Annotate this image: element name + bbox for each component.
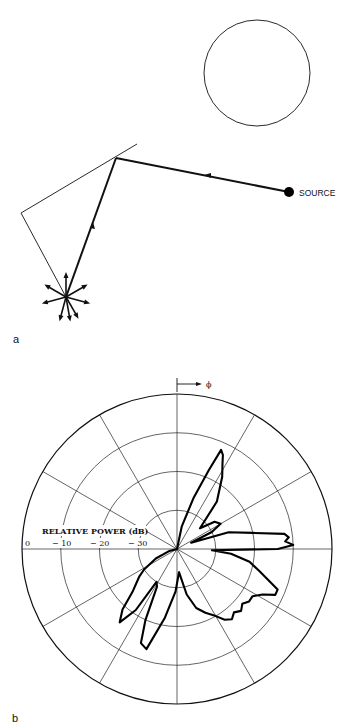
panel-b: ϕ RELATIVE POWER (dB) 0 − 10 − 20 − 30 b [12, 378, 332, 724]
scatter-arrowhead-icon [42, 300, 48, 305]
relative-power-title: RELATIVE POWER (dB) [42, 526, 149, 536]
obstacle-circle [204, 20, 310, 126]
scatter-arrowhead-icon [84, 300, 90, 305]
incident-ray [116, 158, 289, 192]
source-label: SOURCE [299, 188, 336, 198]
scatter-arrowhead-icon [64, 272, 69, 278]
figure: SOURCE a ϕ RELATIVE POWER (dB) 0 − 10 − … [0, 0, 353, 728]
tick-label-10: − 10 [52, 539, 71, 548]
tick-label-20: − 20 [90, 539, 109, 548]
phi-arrow-icon [196, 382, 202, 386]
scatter-arrow [60, 297, 66, 318]
panel-a-label: a [13, 333, 20, 345]
panel-b-label: b [12, 712, 18, 724]
scatter-arrowhead-icon [59, 315, 64, 321]
panel-a: SOURCE a [13, 20, 336, 345]
tick-label-30: − 30 [128, 539, 147, 548]
phi-label: ϕ [206, 380, 212, 389]
diffracted-ray [21, 213, 66, 297]
power-pattern-curve [120, 450, 294, 649]
scatter-arrowhead-icon [67, 315, 72, 321]
reflecting-wall [21, 144, 137, 213]
scatter-arrow [45, 297, 66, 303]
tick-label-0: 0 [25, 539, 30, 548]
source-dot [284, 187, 294, 197]
scatter-star-icon [42, 272, 90, 322]
